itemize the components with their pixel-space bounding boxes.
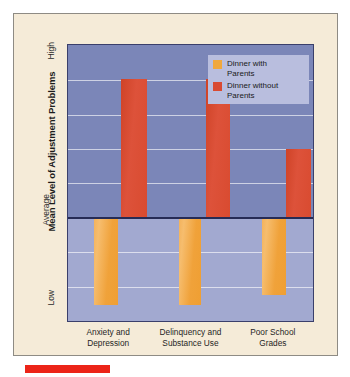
bar-dinner-with-parents-grades[interactable] [262, 219, 286, 295]
red-marker-bar [25, 365, 110, 373]
legend-label-line2: Parents [227, 69, 255, 78]
x-label-line1: Anxiety and [86, 327, 129, 337]
x-label-line1: Delinquency and [160, 327, 222, 337]
legend-item-dinner-with-parents[interactable]: Dinner with Parents [213, 59, 305, 78]
x-label-line2: Grades [259, 338, 286, 348]
figure-card: Mean Level of Adjustment Problems High A… [13, 13, 338, 356]
legend-swatch-icon [213, 82, 222, 91]
x-label-line2: Depression [87, 338, 129, 348]
bar-dinner-with-parents-anxiety[interactable] [94, 219, 118, 305]
bar-dinner-without-parents-anxiety[interactable] [121, 79, 147, 217]
x-label-line2: Substance Use [162, 338, 218, 348]
x-axis-labels: Anxiety and Depression Delinquency and S… [67, 327, 314, 348]
x-axis-label-delinquency: Delinquency and Substance Use [149, 327, 231, 348]
x-axis-label-anxiety: Anxiety and Depression [67, 327, 149, 348]
y-tick-label-average: Average [41, 194, 51, 242]
plot-area: Dinner with Parents Dinner without Paren… [67, 44, 314, 322]
gridline [68, 149, 313, 150]
bar-dinner-with-parents-delinquency[interactable] [179, 219, 201, 305]
y-tick-label-low: Low [46, 290, 56, 332]
gridline [68, 115, 313, 116]
y-tick-label-high: High [46, 42, 56, 84]
legend-item-dinner-without-parents[interactable]: Dinner without Parents [213, 81, 305, 100]
x-label-line1: Poor School [250, 327, 295, 337]
legend-item-label: Dinner with Parents [227, 59, 267, 78]
x-axis-label-grades: Poor School Grades [232, 327, 314, 348]
bar-dinner-without-parents-grades[interactable] [286, 149, 311, 217]
legend-label-line1: Dinner without [227, 81, 278, 90]
legend-label-line2: Parents [227, 91, 255, 100]
gridline [68, 321, 313, 322]
legend-item-label: Dinner without Parents [227, 81, 278, 100]
gridline [68, 183, 313, 184]
legend-swatch-icon [213, 60, 222, 69]
legend: Dinner with Parents Dinner without Paren… [208, 55, 309, 104]
legend-label-line1: Dinner with [227, 59, 267, 68]
